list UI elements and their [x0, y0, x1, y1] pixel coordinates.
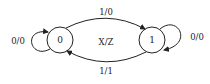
center-label: X/Z — [99, 37, 114, 47]
transition-0-to-1-arrow — [66, 18, 145, 29]
state-1-label: 1 — [149, 35, 155, 45]
transition-1-to-0-arrow — [67, 51, 146, 62]
self-loop-1-label: 0/0 — [190, 32, 204, 42]
transition-1-to-0-label: 1/1 — [99, 66, 113, 76]
state-0-label: 0 — [57, 35, 63, 45]
state-0: 0 — [47, 27, 73, 53]
state-1: 1 — [139, 27, 165, 53]
state-diagram: 0 1 1/0 1/1 X/Z 0/0 0/0 — [0, 0, 210, 84]
transition-0-to-1-label: 1/0 — [99, 7, 113, 17]
self-loop-0-label: 0/0 — [11, 36, 25, 46]
